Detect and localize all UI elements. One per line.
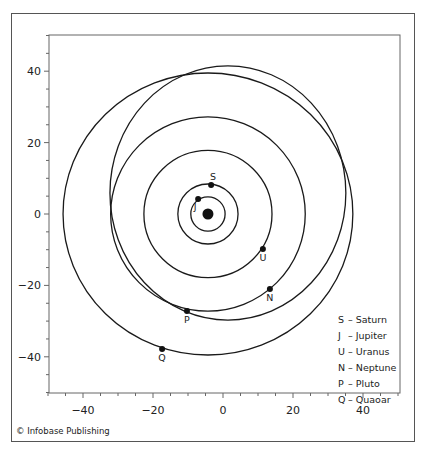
axis-ticks: −40−200204040200−20−40 (18, 36, 398, 418)
planets: SJUNPQ (158, 171, 273, 363)
legend-label: – Saturn (348, 314, 387, 325)
legend-label: – Quaoar (348, 394, 391, 405)
orbit-pluto (110, 66, 346, 320)
credit-text: © Infobase Publishing (16, 426, 110, 436)
legend-label: – Jupiter (348, 330, 387, 341)
planet-label: P (184, 314, 190, 325)
x-tick-label: 0 (220, 404, 227, 417)
orbit-chart: −40−200204040200−20−40 SJUNPQ S– SaturnJ… (0, 0, 427, 458)
planet-label: U (259, 252, 266, 263)
x-tick-label: −20 (141, 404, 164, 417)
legend-key: P (338, 378, 344, 389)
legend-label: – Uranus (348, 346, 389, 357)
legend-key: N (338, 362, 345, 373)
y-tick-label: 40 (27, 65, 41, 78)
legend-key: U (338, 346, 345, 357)
legend-key: S (338, 314, 344, 325)
planet-label: N (266, 292, 273, 303)
sun-marker (202, 209, 213, 220)
y-tick-label: 0 (34, 208, 41, 221)
planet-saturn (208, 182, 214, 188)
x-tick-label: −40 (71, 404, 94, 417)
x-tick-label: 40 (356, 404, 370, 417)
y-tick-label: −40 (18, 351, 41, 364)
planet-label: J (193, 201, 197, 212)
legend-key: Q (338, 394, 345, 405)
legend: S– SaturnJ– JupiterU– UranusN– NeptuneP–… (337, 314, 397, 405)
x-tick-label: 20 (286, 404, 300, 417)
planet-label: S (210, 171, 216, 182)
legend-label: – Neptune (348, 362, 397, 373)
y-tick-label: 20 (27, 137, 41, 150)
legend-key: J (337, 330, 341, 341)
planet-label: Q (158, 352, 165, 363)
y-tick-label: −20 (18, 279, 41, 292)
legend-label: – Pluto (348, 378, 380, 389)
